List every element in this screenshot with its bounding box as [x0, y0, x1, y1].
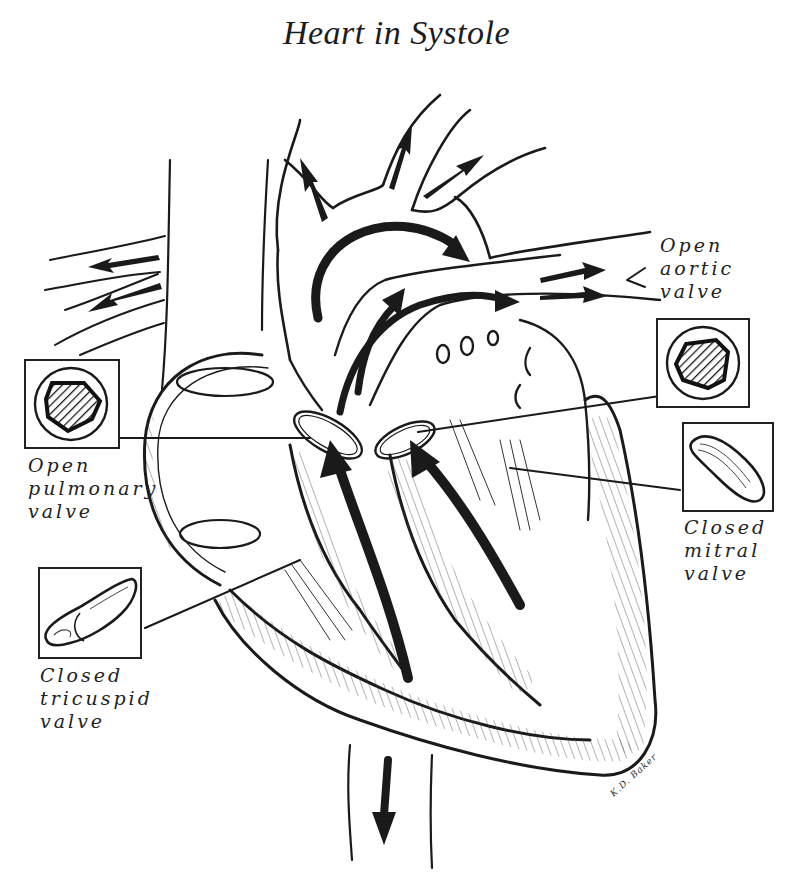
label-line: mitral — [684, 539, 767, 562]
branch-flow-arrows — [300, 125, 484, 222]
aortic-arch — [277, 95, 650, 360]
inset-open-aortic-valve — [656, 318, 750, 408]
label-line: Open — [28, 454, 158, 477]
label-line: pulmonary — [28, 477, 158, 500]
inset-closed-tricuspid-valve — [38, 567, 142, 659]
open-pulmonary-valve-icon — [26, 361, 118, 447]
inset-open-pulmonary-valve — [24, 359, 120, 449]
label-line: valve — [40, 710, 153, 733]
label-line: aortic — [660, 257, 734, 280]
label-line: Open — [660, 234, 734, 257]
label-line: valve — [660, 280, 734, 303]
label-closed-tricuspid-valve: Closed tricuspid valve — [40, 664, 153, 733]
label-closed-mitral-valve: Closed mitral valve — [684, 516, 767, 585]
label-open-aortic-valve: Open aortic valve — [660, 234, 734, 303]
closed-tricuspid-valve-icon — [40, 569, 140, 657]
pulmonary-flow-arrows — [540, 262, 607, 303]
label-open-pulmonary-valve: Open pulmonary valve — [28, 454, 158, 523]
label-line: valve — [684, 562, 767, 585]
label-line: valve — [28, 500, 158, 523]
label-line: tricuspid — [40, 687, 153, 710]
label-line: Closed — [684, 516, 767, 539]
left-pulmonary-vessels — [45, 236, 165, 355]
open-aortic-valve-icon — [658, 320, 748, 406]
ivc-flow-arrow — [384, 760, 388, 815]
closed-mitral-valve-icon — [684, 424, 772, 510]
right-atrium — [144, 353, 273, 585]
label-line: Closed — [40, 664, 153, 687]
inset-closed-mitral-valve — [682, 422, 774, 512]
